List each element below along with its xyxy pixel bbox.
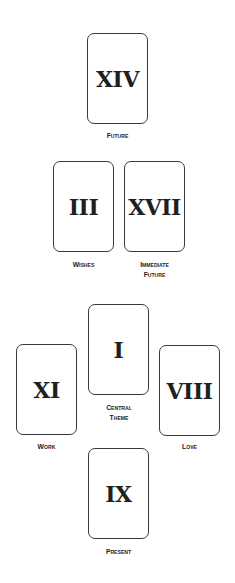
- card-label-wishes: Wishes: [58, 260, 110, 270]
- card-numeral: XIV: [96, 66, 139, 92]
- card-label-central-theme: Central Theme: [89, 403, 149, 423]
- card-numeral: XVII: [128, 194, 181, 220]
- card-central-theme: I: [88, 304, 149, 395]
- card-label-immediate-future: Immediate Future: [124, 260, 184, 280]
- card-present: IX: [88, 448, 149, 539]
- card-work: XI: [16, 344, 77, 435]
- card-love: VIII: [159, 345, 220, 436]
- card-wishes: III: [53, 161, 114, 252]
- card-numeral: XI: [33, 377, 59, 403]
- card-label-future: Future: [92, 131, 144, 141]
- card-numeral: IX: [105, 481, 131, 507]
- card-numeral: I: [114, 337, 124, 363]
- card-label-present: Present: [93, 547, 145, 557]
- card-future: XIV: [87, 33, 148, 124]
- card-label-love: Love: [164, 442, 216, 452]
- card-label-work: Work: [21, 442, 73, 452]
- card-numeral: VIII: [167, 378, 213, 404]
- card-immediate-future: XVII: [124, 161, 185, 252]
- card-numeral: III: [69, 194, 98, 220]
